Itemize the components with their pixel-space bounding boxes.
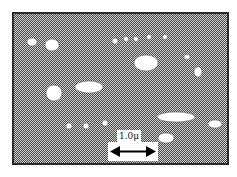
particle	[163, 35, 168, 40]
particle	[83, 123, 89, 129]
particle	[194, 67, 202, 77]
particle	[66, 123, 72, 129]
particle	[112, 38, 118, 44]
particle	[158, 133, 174, 143]
particle	[134, 55, 158, 71]
particle	[27, 38, 37, 46]
particle	[45, 39, 59, 51]
double-arrow-icon	[108, 142, 158, 161]
particle	[157, 112, 195, 122]
particle	[124, 37, 129, 42]
particle	[208, 120, 222, 128]
particle	[134, 37, 139, 42]
particle	[46, 85, 62, 101]
scale-bar	[108, 142, 158, 161]
particle	[102, 120, 108, 126]
particle	[184, 55, 190, 60]
particle	[147, 35, 152, 40]
particle	[75, 81, 103, 93]
